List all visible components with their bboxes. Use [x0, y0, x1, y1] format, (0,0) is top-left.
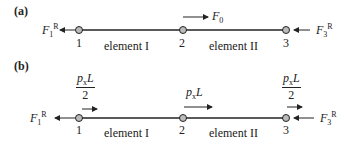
element-2-a: element II: [209, 39, 258, 54]
reaction-left-a: F1R: [42, 22, 59, 39]
node-3-b: 3: [283, 123, 289, 138]
panel-label-a: (a): [14, 4, 28, 19]
element-2-b: element II: [209, 126, 258, 141]
node-1-a: 1: [76, 36, 82, 51]
reaction-right-a: F3R: [316, 22, 333, 39]
reaction-left-b: F1R: [30, 110, 47, 127]
load-node-2: pxL: [186, 85, 203, 101]
element-1-a: element I: [104, 39, 149, 54]
node-2-a: 2: [179, 36, 185, 51]
node-3-a: 3: [283, 36, 289, 51]
panel-label-b: (b): [14, 59, 29, 74]
node-1-b: 1: [76, 123, 82, 138]
node-2-b: 2: [179, 123, 185, 138]
reaction-right-b: F3R: [320, 110, 337, 127]
load-node-1: pxL2: [76, 71, 95, 103]
element-1-b: element I: [104, 126, 149, 141]
applied-force-a: F0: [212, 9, 223, 25]
load-node-3: pxL2: [282, 71, 301, 103]
